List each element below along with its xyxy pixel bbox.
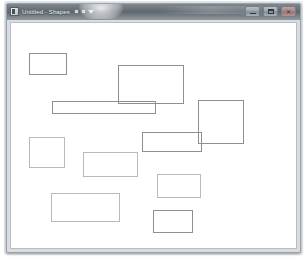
canvas-shape-rect-8[interactable] <box>157 174 201 198</box>
application-window: Untitled - Shapes ✕ <box>6 3 301 253</box>
canvas-shape-rect-3[interactable] <box>52 101 156 114</box>
close-button[interactable]: ✕ <box>281 6 296 17</box>
client-area <box>10 22 297 249</box>
drawing-canvas[interactable] <box>11 23 296 248</box>
maximize-icon <box>264 7 277 16</box>
close-icon: ✕ <box>282 7 295 16</box>
window-controls: ✕ <box>245 6 298 17</box>
canvas-shape-rect-2[interactable] <box>118 65 184 104</box>
minimize-button[interactable] <box>245 6 260 17</box>
maximize-button[interactable] <box>263 6 278 17</box>
minimize-icon <box>246 7 259 16</box>
chevron-down-icon[interactable] <box>88 10 94 14</box>
canvas-shape-rect-7[interactable] <box>83 152 138 177</box>
canvas-shape-rect-10[interactable] <box>153 210 193 233</box>
app-icon[interactable] <box>10 7 19 16</box>
undo-icon[interactable] <box>74 9 79 14</box>
canvas-shape-rect-5[interactable] <box>142 132 202 152</box>
canvas-shape-rect-1[interactable] <box>29 53 67 75</box>
screenshot-root: Untitled - Shapes ✕ <box>0 0 307 267</box>
title-bar-quick-tools[interactable] <box>74 9 94 14</box>
canvas-shape-rect-9[interactable] <box>51 193 120 222</box>
canvas-shape-rect-6[interactable] <box>29 137 65 168</box>
canvas-shape-rect-4[interactable] <box>198 100 244 144</box>
window-title: Untitled - Shapes <box>22 8 70 16</box>
title-bar[interactable]: Untitled - Shapes ✕ <box>7 4 300 20</box>
redo-icon[interactable] <box>81 9 86 14</box>
